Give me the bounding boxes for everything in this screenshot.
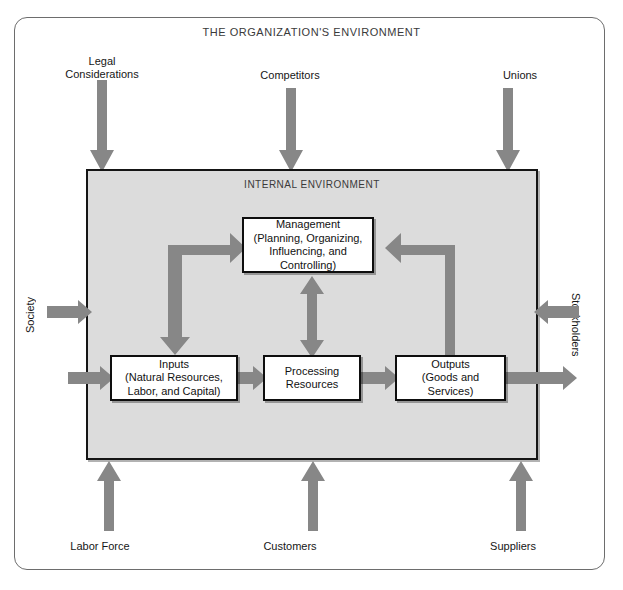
external-label-labor-force: Labor Force (30, 540, 170, 553)
competitors-line-1: Competitors (225, 69, 355, 82)
outputs-line-2: (Goods and (422, 371, 479, 385)
labor-force-line-1: Labor Force (30, 540, 170, 553)
external-label-suppliers: Suppliers (448, 540, 578, 553)
suppliers-line-1: Suppliers (448, 540, 578, 553)
internal-environment-title: INTERNAL ENVIRONMENT (86, 179, 538, 190)
arrow-competitors-down (279, 88, 303, 172)
arrow-environment-into-inputs (68, 366, 114, 390)
management-line-2: (Planning, Organizing, (254, 232, 363, 246)
arrow-labor-force-up (97, 461, 121, 531)
arrow-suppliers-up (509, 461, 533, 531)
management-line-1: Management (254, 218, 363, 232)
process-box-processing-resources[interactable]: Processing Resources (263, 355, 361, 401)
inputs-line-1: Inputs (125, 358, 223, 372)
external-label-competitors: Competitors (225, 69, 355, 82)
legal-line-1: Legal (42, 55, 162, 68)
external-label-customers: Customers (225, 540, 355, 553)
arrow-outputs-to-management-feedback (385, 233, 455, 358)
diagram-canvas: THE ORGANIZATION'S ENVIRONMENT Legal Con… (0, 0, 623, 590)
external-label-society: Society (22, 280, 38, 350)
arrow-outputs-to-environment (503, 366, 577, 390)
process-box-management[interactable]: Management (Planning, Organizing, Influe… (242, 217, 374, 273)
arrow-management-processing-bidirectional (300, 276, 324, 358)
arrow-processing-to-outputs (357, 366, 399, 390)
inputs-line-2: (Natural Resources, (125, 371, 223, 385)
outputs-line-3: Services) (422, 385, 479, 399)
outputs-line-1: Outputs (422, 358, 479, 372)
arrow-stockholders-into-environment (534, 300, 579, 324)
inputs-line-3: Labor, and Capital) (125, 385, 223, 399)
organization-environment-title: THE ORGANIZATION'S ENVIRONMENT (0, 26, 623, 38)
arrow-unions-down (496, 88, 520, 172)
processing-line-1: Processing (285, 365, 339, 379)
arrow-society-into-environment (47, 300, 92, 324)
process-box-inputs[interactable]: Inputs (Natural Resources, Labor, and Ca… (110, 355, 238, 401)
management-line-4: Controlling) (254, 259, 363, 273)
management-line-3: Influencing, and (254, 245, 363, 259)
external-label-unions: Unions (460, 69, 580, 82)
external-label-legal-considerations: Legal Considerations (42, 55, 162, 81)
arrow-customers-up (301, 461, 325, 531)
customers-line-1: Customers (225, 540, 355, 553)
unions-line-1: Unions (460, 69, 580, 82)
arrow-legal-considerations-down (90, 80, 114, 172)
external-label-stockholders: Stockholders (568, 270, 584, 380)
arrow-management-to-inputs-feedback (160, 233, 246, 361)
process-box-outputs[interactable]: Outputs (Goods and Services) (395, 355, 506, 401)
processing-line-2: Resources (285, 378, 339, 392)
